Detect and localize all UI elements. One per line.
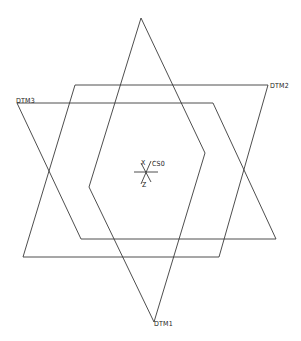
coordinate-system-cs0[interactable]: X CS0 Z — [134, 159, 165, 189]
csys-label: CS0 — [152, 160, 165, 168]
dtm2-label: DTM2 — [270, 82, 289, 90]
datum-planes-diagram: DTM1 DTM2 DTM3 X CS0 Z — [0, 0, 301, 341]
dtm1-label: DTM1 — [154, 320, 173, 328]
csys-x-label: X — [141, 159, 146, 167]
csys-z-label: Z — [142, 181, 147, 189]
dtm3-label: DTM3 — [16, 97, 35, 105]
